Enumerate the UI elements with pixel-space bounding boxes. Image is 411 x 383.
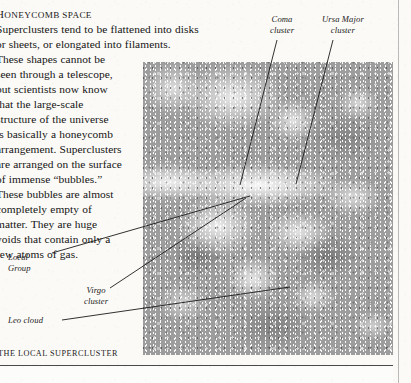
body-line: structure of the universe	[0, 112, 148, 127]
annotation-local-line2: Group	[8, 263, 31, 274]
annotation-label-leo-cloud: Leo cloud	[8, 315, 43, 326]
body-line: matter. They are huge	[0, 217, 148, 232]
supercluster-photograph	[143, 62, 393, 355]
annotation-virgo-line1: Virgo	[84, 285, 108, 296]
annotation-leo-line1: Leo cloud	[8, 315, 43, 326]
annotation-local-line1: Local	[8, 252, 31, 263]
vertical-margin-rule	[398, 0, 399, 383]
figure-caption: The Local Supercluster	[0, 349, 118, 358]
annotation-coma-line1: Coma	[270, 14, 294, 25]
annotation-ursa-line1: Ursa Major	[322, 14, 364, 25]
body-text: Superclusters tend to be flattened into …	[0, 22, 148, 262]
body-line: completely empty of	[0, 202, 148, 217]
annotation-label-local-group: Local Group	[8, 252, 31, 274]
horizontal-rule	[0, 365, 393, 366]
body-line: seen through a telescope,	[0, 67, 148, 82]
body-line: are arranged on the surface	[0, 157, 148, 172]
annotation-ursa-line2: cluster	[322, 25, 364, 36]
text-column: Honeycomb space Superclusters tend to be…	[0, 8, 148, 262]
annotation-label-coma: Coma cluster	[270, 14, 294, 36]
body-line: but scientists now know	[0, 82, 148, 97]
body-line: that the large-scale	[0, 97, 148, 112]
page-footer-area	[0, 366, 393, 383]
annotation-coma-line2: cluster	[270, 25, 294, 36]
body-line: is basically a honeycomb	[0, 127, 148, 142]
body-line: These shapes cannot be	[0, 52, 148, 67]
section-heading: Honeycomb space	[0, 8, 148, 22]
annotation-label-ursa-major: Ursa Major cluster	[322, 14, 364, 36]
body-line: or sheets, or elongated into filaments.	[0, 37, 148, 52]
book-page: Honeycomb space Superclusters tend to be…	[0, 0, 411, 383]
plate-vignette	[143, 62, 393, 355]
body-line: These bubbles are almost	[0, 187, 148, 202]
annotation-label-virgo-cluster: Virgo cluster	[84, 285, 108, 307]
body-line: of immense “bubbles.”	[0, 172, 148, 187]
body-line: arrangement. Superclusters	[0, 142, 148, 157]
annotation-virgo-line2: cluster	[84, 296, 108, 307]
body-line: Superclusters tend to be flattened into …	[0, 22, 148, 37]
body-line: voids that contain only a	[0, 232, 148, 247]
